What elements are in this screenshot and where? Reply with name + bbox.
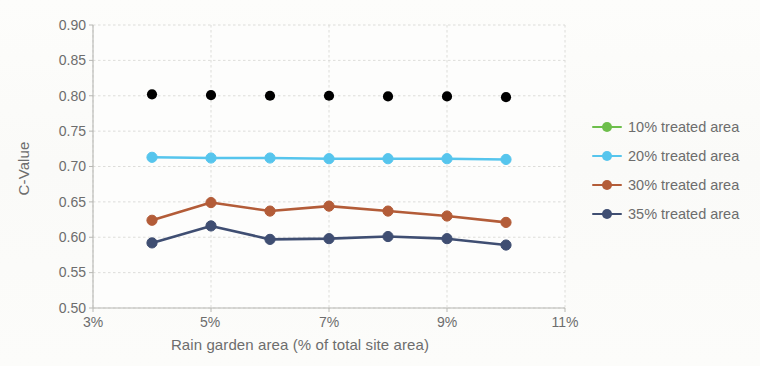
data-point (501, 240, 511, 250)
x-tick-label: 3% (70, 314, 116, 330)
data-point (265, 234, 275, 244)
data-point (442, 211, 452, 221)
y-tick-label: 0.90 (40, 17, 86, 33)
data-point (501, 217, 511, 227)
legend-dot (602, 180, 612, 190)
legend-label: 20% treated area (628, 148, 739, 164)
data-point (147, 152, 157, 162)
legend-item: 35% treated area (592, 199, 760, 228)
data-point (265, 91, 275, 101)
data-point (383, 154, 393, 164)
x-axis-title: Rain garden area (% of total site area) (0, 336, 600, 353)
y-tick-label: 0.85 (40, 52, 86, 68)
data-point (383, 206, 393, 216)
legend-marker-icon (592, 120, 622, 134)
data-point (147, 215, 157, 225)
y-tick-label: 0.55 (40, 264, 86, 280)
legend-marker-icon (592, 207, 622, 221)
chart-legend: 10% treated area 20% treated area 30% tr… (592, 112, 760, 228)
chart-figure: 0.90 0.85 0.80 0.75 0.70 0.65 0.60 0.55 … (0, 0, 760, 366)
data-point (442, 154, 452, 164)
legend-marker-icon (592, 149, 622, 163)
data-point (442, 91, 452, 101)
legend-item: 10% treated area (592, 112, 760, 141)
data-point (501, 154, 511, 164)
legend-dot (602, 122, 612, 132)
legend-label: 30% treated area (628, 177, 739, 193)
x-tick-label: 7% (306, 314, 352, 330)
legend-label: 10% treated area (628, 119, 739, 135)
data-point (206, 197, 216, 207)
x-tick-label: 9% (424, 314, 470, 330)
y-tick-label: 0.70 (40, 158, 86, 174)
data-point (383, 91, 393, 101)
y-tick-label: 0.65 (40, 194, 86, 210)
data-point (206, 90, 216, 100)
data-point (147, 238, 157, 248)
y-tick-label: 0.80 (40, 88, 86, 104)
data-point (324, 154, 334, 164)
data-point (265, 206, 275, 216)
data-point (265, 153, 275, 163)
y-tick-label: 0.60 (40, 229, 86, 245)
legend-item: 30% treated area (592, 170, 760, 199)
data-point (383, 231, 393, 241)
legend-label: 35% treated area (628, 206, 739, 222)
y-tick-label: 0.75 (40, 123, 86, 139)
data-point (147, 89, 157, 99)
legend-marker-icon (592, 178, 622, 192)
data-point (324, 91, 334, 101)
data-point (324, 234, 334, 244)
data-point (442, 234, 452, 244)
data-point (324, 201, 334, 211)
legend-dot (602, 209, 612, 219)
y-axis-title: C-Value (15, 124, 32, 214)
legend-dot (602, 151, 612, 161)
data-point (206, 153, 216, 163)
data-point (206, 221, 216, 231)
legend-item: 20% treated area (592, 141, 760, 170)
x-tick-label: 11% (542, 314, 588, 330)
data-point (501, 92, 511, 102)
x-tick-label: 5% (187, 314, 233, 330)
